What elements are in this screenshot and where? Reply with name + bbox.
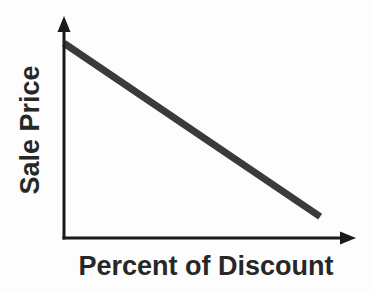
y-axis-arrowhead-icon: [58, 16, 71, 32]
chart-figure: Sale Price Percent of Discount: [0, 0, 371, 293]
x-axis-arrowhead-icon: [340, 232, 356, 245]
price-discount-trend-line: [64, 43, 320, 216]
y-axis-label: Sale Price: [15, 65, 46, 194]
chart-canvas: [0, 0, 371, 293]
x-axis-label: Percent of Discount: [78, 251, 333, 282]
